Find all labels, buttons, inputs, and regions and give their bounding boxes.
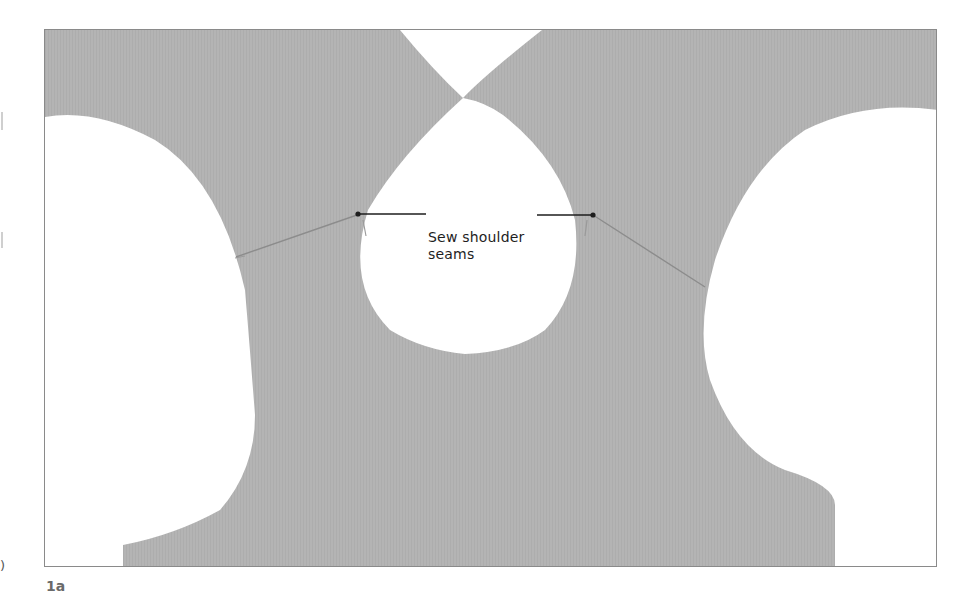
annotation-line-1: Sew shoulder — [428, 229, 525, 246]
fabric-photo — [44, 29, 937, 567]
annotation-sew-shoulder-seams: Sew shoulder seams — [428, 229, 525, 263]
fabric-body — [45, 30, 937, 567]
margin-mark-middle — [1, 232, 3, 248]
annotation-line-2: seams — [428, 246, 525, 263]
figure-label: 1a — [46, 579, 65, 591]
margin-mark-top — [1, 112, 3, 130]
leader-dot-right — [590, 212, 595, 217]
page: ) Sew sho — [0, 0, 962, 591]
margin-bracket: ) — [0, 558, 5, 573]
fabric-piece-illustration — [45, 30, 937, 567]
leader-dot-left — [355, 211, 360, 216]
